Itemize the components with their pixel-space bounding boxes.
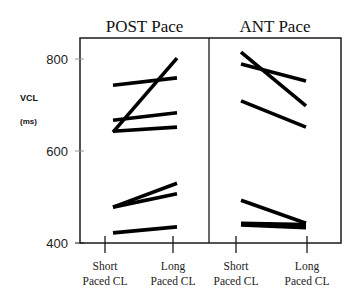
x-tick-label: Paced CL: [284, 275, 329, 287]
series-line: [113, 227, 177, 233]
panel-titles: POST PaceANT Pace: [106, 17, 311, 36]
series-line: [113, 58, 177, 132]
series-line: [241, 101, 306, 127]
series-line: [113, 127, 177, 131]
plot-frame: [80, 38, 341, 243]
vcl-chart: POST PaceANT Pace 400600800 ShortPaced C…: [0, 0, 356, 300]
series-line: [113, 78, 177, 85]
y-tick-label: 400: [46, 236, 68, 251]
panel-title-post: POST Pace: [106, 17, 184, 36]
x-tick-label: Short: [224, 260, 250, 272]
panel-title-ant: ANT Pace: [240, 17, 311, 36]
x-tick-label: Long: [161, 260, 186, 273]
y-tick-label: 800: [46, 52, 68, 67]
y-axis: 400600800: [46, 52, 84, 251]
y-axis-unit-label: (ms): [20, 117, 37, 126]
x-tick-label: Paced CL: [82, 275, 127, 287]
series-line: [113, 113, 177, 120]
x-tick-label: Short: [93, 260, 119, 272]
x-tick-label: Long: [295, 260, 320, 273]
y-axis-label: VCL: [20, 93, 39, 103]
plot-border: [80, 38, 341, 243]
x-tick-label: Paced CL: [213, 275, 258, 287]
series-line: [241, 200, 306, 223]
x-tick-label: Paced CL: [150, 275, 195, 287]
y-tick-label: 600: [46, 144, 68, 159]
